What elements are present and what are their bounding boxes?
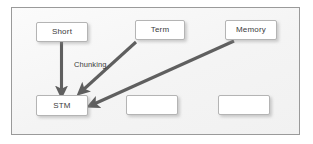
edge-label-chunking: Chunking [74,60,107,69]
node-stm-label: STM [53,102,71,110]
node-stm[interactable]: STM [36,95,88,116]
node-memory-label: Memory [236,26,266,34]
node-term-label: Term [151,26,170,34]
node-empty-1[interactable] [126,95,178,115]
node-memory[interactable]: Memory [225,20,277,40]
node-short[interactable]: Short [36,22,88,42]
node-term[interactable]: Term [135,20,185,40]
node-empty-2[interactable] [218,95,270,115]
diagram-canvas: Short Term Memory STM Chunking [0,0,313,144]
node-short-label: Short [52,28,72,36]
